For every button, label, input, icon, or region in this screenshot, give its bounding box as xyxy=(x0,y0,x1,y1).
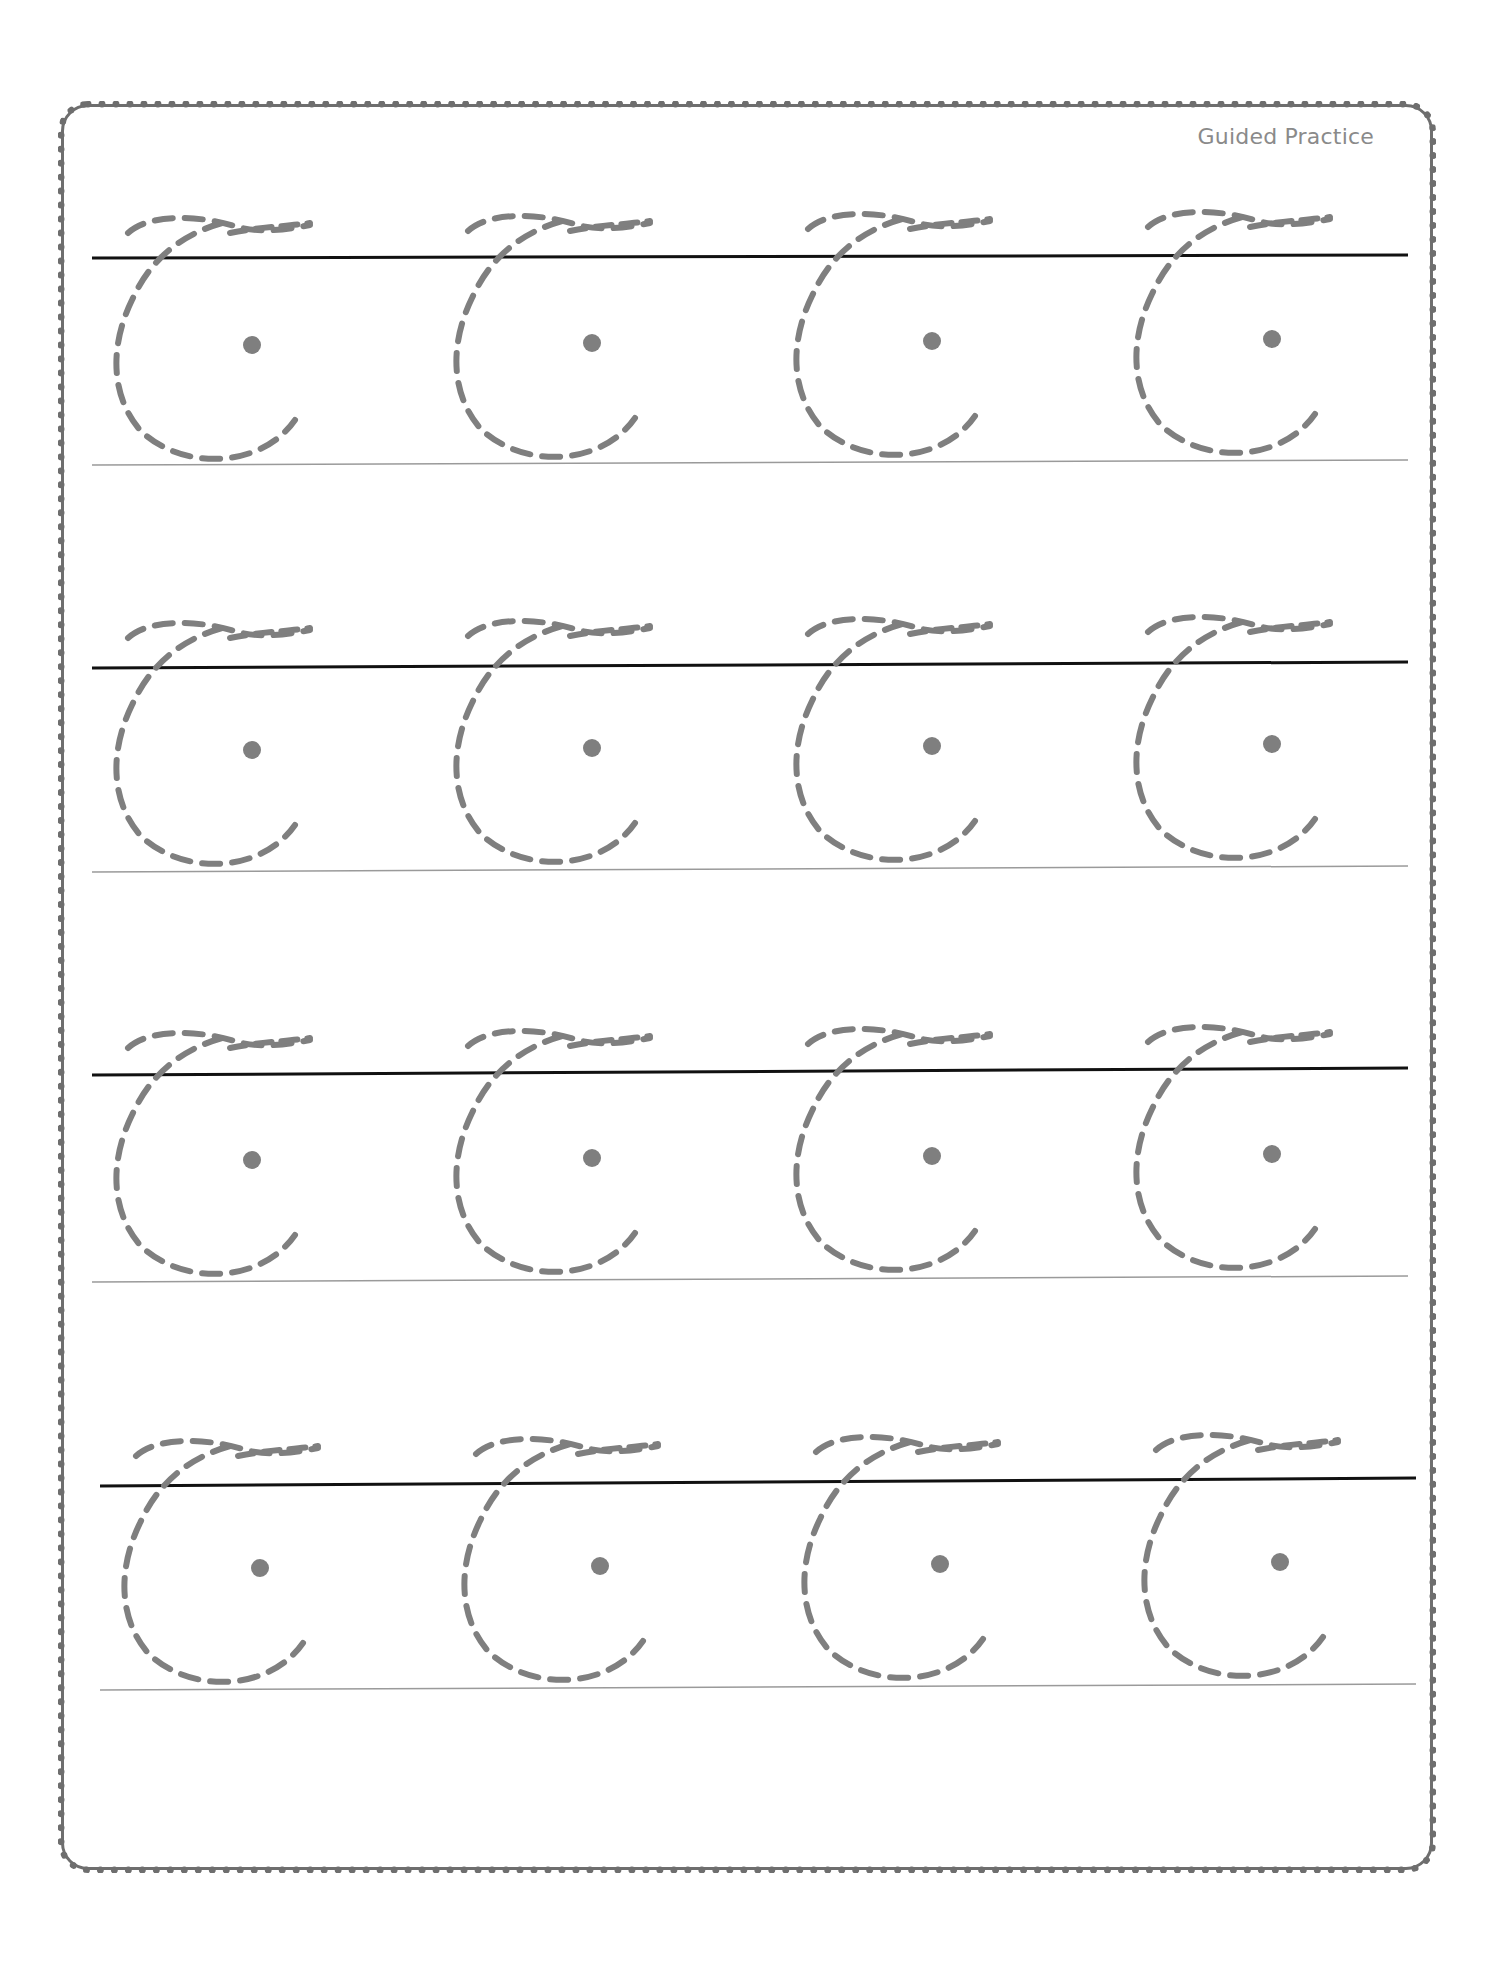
baseline xyxy=(92,866,1408,872)
start-dot-icon xyxy=(251,1559,269,1577)
dashed-tail-path xyxy=(1250,622,1330,632)
start-dot-icon xyxy=(583,334,601,352)
tracing-letter xyxy=(116,623,310,864)
start-dot-icon xyxy=(923,1147,941,1165)
start-dot-icon xyxy=(1263,330,1281,348)
tracing-letter xyxy=(1144,1435,1338,1676)
dashed-letter-path xyxy=(464,1439,658,1680)
dashed-tail-path xyxy=(570,1036,650,1046)
tracing-letter xyxy=(796,214,990,455)
practice-row xyxy=(100,1435,1416,1690)
tracing-letter xyxy=(796,1029,990,1270)
dashed-letter-path xyxy=(796,214,990,455)
tracing-letter xyxy=(796,619,990,860)
dashed-letter-path xyxy=(1144,1435,1338,1676)
dashed-letter-path xyxy=(116,1033,310,1274)
headline xyxy=(92,255,1408,258)
start-dot-icon xyxy=(243,336,261,354)
tracing-letter xyxy=(124,1441,318,1682)
tracing-letter xyxy=(456,621,650,862)
dashed-letter-path xyxy=(1136,617,1330,858)
dashed-tail-path xyxy=(1258,1440,1338,1450)
start-dot-icon xyxy=(931,1555,949,1573)
headline xyxy=(100,1478,1416,1486)
dashed-tail-path xyxy=(910,624,990,634)
dashed-letter-path xyxy=(796,1029,990,1270)
start-dot-icon xyxy=(243,741,261,759)
dashed-tail-path xyxy=(230,1038,310,1048)
dashed-letter-path xyxy=(796,619,990,860)
practice-row xyxy=(92,1027,1408,1282)
dashed-tail-path xyxy=(578,1444,658,1454)
dashed-tail-path xyxy=(1250,217,1330,227)
dashed-tail-path xyxy=(230,628,310,638)
dashed-letter-path xyxy=(1136,1027,1330,1268)
start-dot-icon xyxy=(1271,1553,1289,1571)
tracing-letter xyxy=(116,218,310,459)
start-dot-icon xyxy=(923,737,941,755)
dashed-tail-path xyxy=(910,1034,990,1044)
dashed-letter-path xyxy=(116,623,310,864)
dashed-tail-path xyxy=(1250,1032,1330,1042)
start-dot-icon xyxy=(591,1557,609,1575)
dashed-letter-path xyxy=(456,216,650,457)
baseline xyxy=(92,460,1408,465)
dashed-letter-path xyxy=(456,621,650,862)
dashed-letter-path xyxy=(1136,212,1330,453)
tracing-letter xyxy=(1136,1027,1330,1268)
start-dot-icon xyxy=(1263,735,1281,753)
tracing-letter xyxy=(116,1033,310,1274)
dashed-tail-path xyxy=(918,1442,998,1452)
dashed-tail-path xyxy=(570,221,650,231)
dashed-tail-path xyxy=(570,626,650,636)
start-dot-icon xyxy=(1263,1145,1281,1163)
tracing-letter xyxy=(456,216,650,457)
dashed-letter-path xyxy=(124,1441,318,1682)
baseline xyxy=(100,1684,1416,1690)
practice-row xyxy=(92,617,1408,872)
tracing-letter xyxy=(804,1437,998,1678)
dashed-tail-path xyxy=(230,223,310,233)
start-dot-icon xyxy=(923,332,941,350)
tracing-letter xyxy=(1136,212,1330,453)
start-dot-icon xyxy=(583,739,601,757)
tracing-letter xyxy=(464,1439,658,1680)
baseline xyxy=(92,1276,1408,1282)
dashed-tail-path xyxy=(238,1446,318,1456)
start-dot-icon xyxy=(583,1149,601,1167)
dashed-letter-path xyxy=(804,1437,998,1678)
headline xyxy=(92,1068,1408,1075)
start-dot-icon xyxy=(243,1151,261,1169)
practice-row xyxy=(92,212,1408,465)
dashed-letter-path xyxy=(456,1031,650,1272)
tracing-area xyxy=(0,0,1498,1961)
dashed-letter-path xyxy=(116,218,310,459)
dashed-tail-path xyxy=(910,219,990,229)
headline xyxy=(92,662,1408,668)
tracing-letter xyxy=(456,1031,650,1272)
tracing-letter xyxy=(1136,617,1330,858)
